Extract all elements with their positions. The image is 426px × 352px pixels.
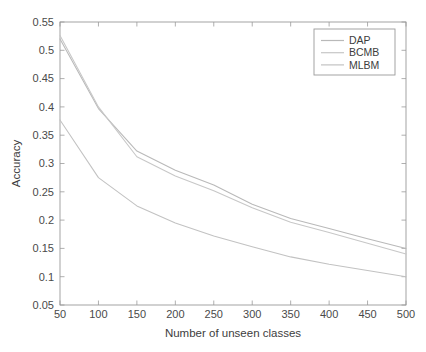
y-tick-label: 0.45 — [33, 72, 54, 84]
y-tick-label: 0.35 — [33, 129, 54, 141]
legend-label-dap: DAP — [349, 34, 371, 46]
x-tick-label: 50 — [54, 308, 66, 320]
y-tick-label: 0.2 — [39, 214, 54, 226]
y-tick-label: 0.3 — [39, 157, 54, 169]
x-tick-label: 100 — [89, 308, 107, 320]
x-tick-label: 400 — [320, 308, 338, 320]
x-axis-title: Number of unseen classes — [165, 327, 301, 339]
x-tick-label: 150 — [128, 308, 146, 320]
y-tick-label: 0.25 — [33, 186, 54, 198]
y-tick-label: 0.4 — [39, 101, 54, 113]
series-line-mlbm — [60, 120, 406, 277]
x-tick-label: 300 — [243, 308, 261, 320]
y-tick-label: 0.05 — [33, 299, 54, 311]
chart-figure: 501001502002503003504004505000.050.10.15… — [0, 0, 426, 352]
x-tick-label: 250 — [205, 308, 223, 320]
y-tick-label: 0.5 — [39, 44, 54, 56]
y-axis-title: Accuracy — [10, 140, 22, 188]
x-tick-label: 350 — [281, 308, 299, 320]
y-tick-label: 0.15 — [33, 242, 54, 254]
x-tick-label: 500 — [397, 308, 415, 320]
y-tick-label: 0.55 — [33, 16, 54, 28]
x-tick-label: 450 — [358, 308, 376, 320]
legend-label-bcmb: BCMB — [349, 46, 379, 58]
x-tick-label: 200 — [166, 308, 184, 320]
line-chart: 501001502002503003504004505000.050.10.15… — [0, 0, 426, 352]
y-tick-label: 0.1 — [39, 271, 54, 283]
legend-label-mlbm: MLBM — [349, 59, 379, 71]
